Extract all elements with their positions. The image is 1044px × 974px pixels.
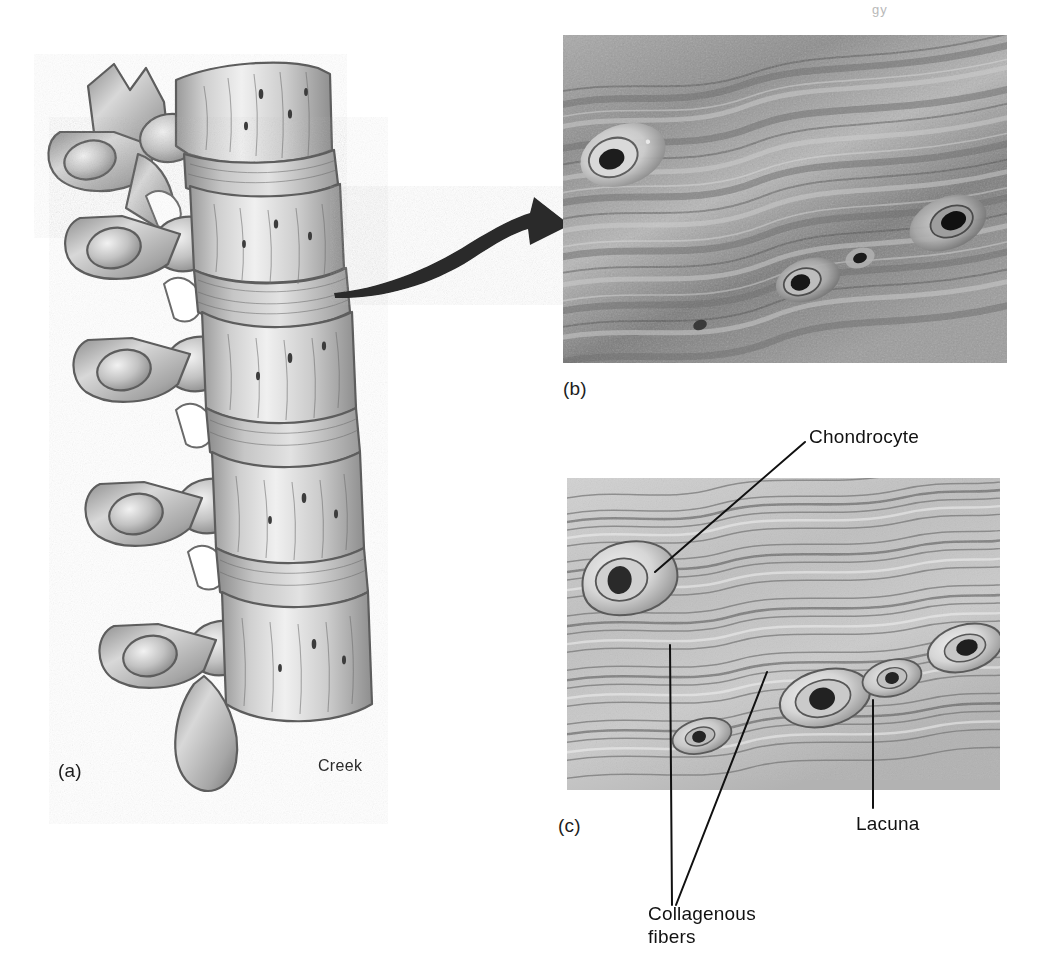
- panel-b-micrograph: [563, 35, 1007, 363]
- label-chondrocyte: Chondrocyte: [809, 425, 919, 448]
- vertebrae-drawing: [18, 28, 488, 828]
- vertebral-body-2: [190, 184, 344, 283]
- magnification-arrow: [330, 185, 580, 305]
- arrow-shape: [334, 197, 570, 298]
- panel-c-diagram: [567, 478, 1000, 790]
- figure-root: gy: [0, 0, 1044, 974]
- vertebral-body-3: [202, 312, 356, 424]
- artist-signature: Creek: [318, 757, 362, 775]
- panel-a-vertebrae: [18, 28, 488, 828]
- label-lacuna: Lacuna: [856, 812, 920, 835]
- collagenous-fibers-line-1: Collagenous: [648, 903, 756, 924]
- collagenous-fibers-line-2: fibers: [648, 926, 696, 947]
- vertebral-body-4: [212, 452, 364, 564]
- page-header-fragment: gy: [872, 2, 888, 17]
- fibrocartilage-diagram: [567, 478, 1000, 790]
- panel-label-b: (b): [563, 378, 587, 400]
- fibrocartilage-micrograph: [563, 35, 1007, 363]
- label-collagenous-fibers: Collagenous fibers: [648, 902, 756, 948]
- panel-label-a: (a): [58, 760, 82, 782]
- panel-label-c: (c): [558, 815, 581, 837]
